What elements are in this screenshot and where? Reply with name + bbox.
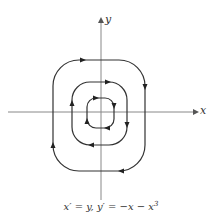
orbit-outer <box>53 60 145 171</box>
x-axis-label: x <box>200 104 206 117</box>
caption-exponent: 3 <box>154 200 158 208</box>
equation-caption: x′ = y, y′ = −x − x3 <box>0 200 222 212</box>
phase-portrait <box>0 0 222 223</box>
caption-text: x′ = y, y′ = −x − x <box>64 201 154 212</box>
direction-arrows <box>51 58 148 174</box>
orbit-middle <box>72 82 127 145</box>
y-axis-label: y <box>105 13 111 26</box>
